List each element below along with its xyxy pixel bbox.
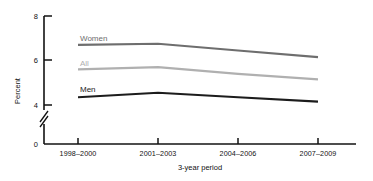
series-line-women xyxy=(78,44,318,57)
y-tick-label-4: 4 xyxy=(34,101,38,110)
series-line-all xyxy=(78,67,318,79)
series-label-all: All xyxy=(80,59,89,68)
x-tick-label-2: 2001–2003 xyxy=(140,149,177,158)
y-tick-label-6: 6 xyxy=(34,56,38,65)
line-chart: Percent 8 6 4 0 1998–2000 2001–2003 2004… xyxy=(0,0,373,181)
chart-canvas: Percent 8 6 4 0 1998–2000 2001–2003 2004… xyxy=(0,0,373,181)
series-line-men xyxy=(78,93,318,102)
x-tick-label-1: 1998–2000 xyxy=(60,149,97,158)
x-tick-label-3: 2004–2006 xyxy=(220,149,257,158)
y-axis-title: Percent xyxy=(13,77,22,104)
x-axis-title: 3-year period xyxy=(178,163,222,172)
x-tick-label-4: 2007–2009 xyxy=(300,149,337,158)
series-label-women: Women xyxy=(80,34,107,43)
y-tick-label-8: 8 xyxy=(34,12,38,21)
y-tick-label-0: 0 xyxy=(34,140,38,149)
series-label-men: Men xyxy=(80,85,96,94)
